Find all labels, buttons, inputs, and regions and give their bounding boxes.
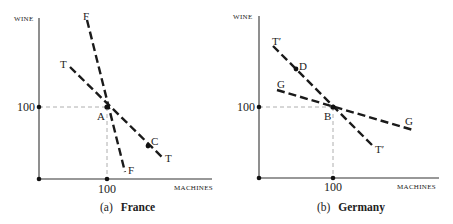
line-g-label-right: G: [405, 115, 413, 127]
y-tick-100: 100: [237, 100, 255, 114]
line-f: [87, 20, 125, 172]
line-t-prime: [273, 46, 372, 145]
line-g-label-left: G: [277, 78, 285, 90]
caption-germany: (b) Germany: [317, 201, 385, 214]
caption-prefix: (a): [100, 201, 113, 214]
caption-name: Germany: [338, 201, 385, 214]
point-a: [104, 104, 109, 109]
x-tick-100: 100: [324, 180, 342, 194]
caption-name: France: [121, 201, 155, 213]
caption-prefix: (b): [317, 201, 331, 214]
x-tick-dot: [105, 177, 110, 182]
x-axis-label: MACHINES: [174, 184, 213, 192]
y-tick-dot: [257, 105, 262, 110]
panel-france: WINE MACHINES 100 100 F F T T A C (a) Fr…: [14, 10, 213, 214]
line-t-prime-label-top: T′: [272, 35, 281, 47]
point-a-label: A: [97, 110, 105, 122]
y-axis-label: WINE: [14, 15, 33, 23]
origin-dot: [257, 176, 262, 181]
point-d-label: D: [299, 60, 307, 72]
line-g: [277, 90, 413, 130]
line-t-label-bottom: T: [165, 152, 172, 164]
y-tick-dot: [37, 105, 42, 110]
y-tick-100: 100: [17, 100, 35, 114]
point-d: [294, 67, 299, 72]
line-t-prime-label-bottom: T′: [375, 143, 384, 155]
y-axis-label: WINE: [233, 13, 252, 21]
x-tick-100: 100: [98, 182, 116, 196]
panel-germany: WINE MACHINES 100 100 T′ T′ G G B D (b) …: [233, 13, 439, 214]
origin-dot: [37, 177, 42, 182]
point-c: [146, 144, 151, 149]
line-t-label-top: T: [60, 58, 67, 70]
point-c-label: C: [151, 135, 158, 147]
line-f-label-bottom: F: [128, 164, 134, 176]
line-f-label-top: F: [83, 10, 89, 22]
point-b-label: B: [324, 110, 331, 122]
caption-france: (a) France: [100, 201, 155, 214]
x-axis-label: MACHINES: [397, 183, 436, 191]
point-b: [330, 104, 335, 109]
diagram-canvas: WINE MACHINES 100 100 F F T T A C (a) Fr…: [0, 0, 453, 224]
